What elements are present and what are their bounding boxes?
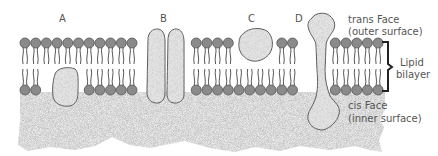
lipid-head [116,38,126,48]
lipid-head [341,38,351,48]
label-protein-c: C [248,13,255,25]
lipid-head [74,38,84,48]
lipid-head [41,38,51,48]
cis-face-label: cis Face [348,100,387,112]
protein-c [239,29,273,62]
lipid-head [266,85,276,95]
lipid-head [245,85,255,95]
lipid-head [277,38,287,48]
lipid-head [330,85,340,95]
lipid-head [31,38,41,48]
lipid-head [255,85,265,95]
lipid-head [127,38,137,48]
label-protein-d: D [295,13,303,25]
lipid-head [202,38,212,48]
lipid-head [288,85,298,95]
lipid-head [20,38,30,48]
lipid-head [191,85,201,95]
lipid-head [277,85,287,95]
lipid-head [95,38,105,48]
lipid-head [373,85,383,95]
lipid-head [373,38,383,48]
trans-face-label: trans Face [348,14,400,26]
membrane-diagram: A B C D trans Face (outer surface) Lipid… [0,0,438,156]
lipid-head [84,85,94,95]
lipid-head [191,38,201,48]
lipid-head [352,85,362,95]
lipid-head [106,85,116,95]
protein-b [147,29,184,103]
protein-a [53,68,79,107]
lipid-head [202,85,212,95]
label-protein-b: B [160,13,167,25]
lipid-head [223,38,233,48]
bilayer-bracket [382,42,392,91]
lipid-head [106,38,116,48]
lipid-head [95,85,105,95]
cis-face-sublabel: (inner surface) [348,113,422,125]
lipid-head [362,85,372,95]
lipid-head [84,38,94,48]
lipid-head [362,38,372,48]
bilayer-label: bilayer [396,69,430,81]
lipid-head [116,85,126,95]
lipid-head [352,38,362,48]
lipid-head [127,85,137,95]
lipid-head [20,85,30,95]
label-protein-a: A [59,13,66,25]
lipid-head [213,85,223,95]
lipid-head [288,38,298,48]
trans-face-sublabel: (outer surface) [348,26,423,38]
protein-d [308,13,339,130]
lipid-head [63,38,73,48]
lipid-head [341,85,351,95]
lipid-head [330,38,340,48]
lipid-head [213,38,223,48]
lipid-head [31,85,41,95]
lipid-head [234,85,244,95]
lipid-head [223,85,233,95]
lipid-head [52,38,62,48]
lipid-label: Lipid [400,57,424,69]
